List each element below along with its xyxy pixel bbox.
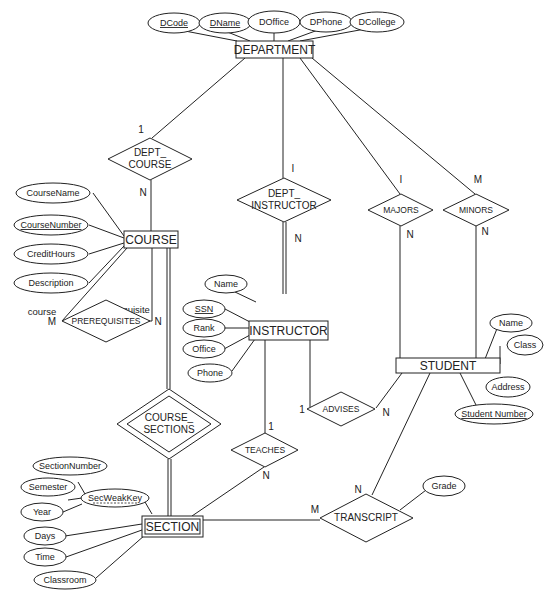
cardinality-prereq-course: M	[48, 316, 56, 327]
svg-text:SecWeakKey: SecWeakKey	[88, 493, 142, 503]
cardinality-transcript-student: N	[354, 484, 361, 495]
svg-text:CreditHours: CreditHours	[27, 249, 76, 259]
svg-text:Days: Days	[35, 531, 56, 541]
svg-text:STUDENT: STUDENT	[420, 359, 477, 373]
svg-text:Name: Name	[214, 279, 238, 289]
cardinality-transcript-section: M	[311, 504, 319, 515]
svg-text:Name: Name	[499, 318, 523, 328]
svg-text:Office: Office	[192, 344, 215, 354]
svg-text:SectionNumber: SectionNumber	[39, 461, 101, 471]
svg-text:DEPT_: DEPT_	[268, 188, 301, 199]
svg-text:TEACHES: TEACHES	[245, 445, 285, 455]
cardinality-advises-instr: 1	[299, 404, 305, 415]
svg-text:MAJORS: MAJORS	[383, 205, 419, 215]
svg-text:COURSE: COURSE	[129, 159, 172, 170]
svg-text:SECTION: SECTION	[146, 520, 199, 534]
svg-text:Class: Class	[514, 340, 537, 350]
attr-sectionnumber: SectionNumber	[33, 457, 107, 475]
svg-text:DEPARTMENT: DEPARTMENT	[234, 43, 316, 57]
attr-office: Office	[183, 340, 225, 358]
entity-section: SECTION	[142, 516, 203, 537]
svg-text:CourseName: CourseName	[26, 188, 79, 198]
svg-text:Rank: Rank	[193, 323, 215, 333]
cardinality-teaches-instr: 1	[268, 421, 274, 432]
cardinality-dept-course-dept: 1	[138, 124, 144, 135]
attr-secweakkey: SecWeakKey	[81, 489, 149, 507]
relationship-course-sections: COURSE_ SECTIONS	[117, 389, 221, 459]
attr-address: Address	[486, 377, 530, 397]
svg-text:DName: DName	[210, 18, 241, 28]
svg-text:INSTRUCTOR: INSTRUCTOR	[251, 200, 316, 211]
cardinality-majors-student: N	[406, 229, 413, 240]
attr-description: Description	[14, 273, 88, 293]
svg-text:Student Number: Student Number	[461, 409, 527, 419]
attr-ssn: SSN	[183, 300, 225, 318]
svg-text:Address: Address	[491, 382, 525, 392]
attr-credithours: CreditHours	[14, 244, 88, 264]
cardinality-minors-student: N	[481, 226, 488, 237]
svg-text:INSTRUCTOR: INSTRUCTOR	[249, 324, 328, 338]
svg-text:DOffice: DOffice	[259, 17, 289, 27]
relationship-majors: MAJORS	[368, 194, 433, 226]
cardinality-dept-instr-instr: N	[294, 233, 301, 244]
svg-text:ADVISES: ADVISES	[323, 404, 360, 414]
attr-classroom: Classroom	[34, 571, 96, 589]
svg-text:DCollege: DCollege	[358, 17, 395, 27]
relationship-dept-instructor: DEPT_ INSTRUCTOR	[237, 178, 331, 222]
svg-text:MINORS: MINORS	[459, 205, 493, 215]
svg-text:DEPT_: DEPT_	[134, 147, 167, 158]
relationship-teaches: TEACHES	[231, 433, 298, 467]
relationship-advises: ADVISES	[307, 392, 375, 426]
attr-instructor-name: Name	[205, 275, 247, 293]
attr-rank: Rank	[183, 319, 225, 337]
svg-text:DCode: DCode	[160, 18, 188, 28]
cardinality-prereq-prereq: N	[154, 316, 161, 327]
er-diagram: DCode DName DOffice DPhone DCollege DEPA…	[0, 0, 553, 601]
cardinality-dept-course-course: N	[139, 187, 146, 198]
svg-text:COURSE_: COURSE_	[145, 412, 194, 423]
attr-dname: DName	[199, 13, 251, 33]
cardinality-advises-student: N	[382, 407, 389, 418]
attr-days: Days	[24, 527, 66, 545]
svg-text:Grade: Grade	[431, 481, 456, 491]
svg-text:SECTIONS: SECTIONS	[143, 424, 194, 435]
entity-student: STUDENT	[396, 358, 500, 373]
attr-coursename: CourseName	[16, 183, 90, 203]
attr-doffice: DOffice	[248, 11, 300, 33]
attr-dcode: DCode	[148, 13, 200, 33]
svg-text:TRANSCRIPT: TRANSCRIPT	[334, 512, 398, 523]
attr-year: Year	[21, 503, 63, 521]
cardinality-teaches-section: N	[262, 470, 269, 481]
attr-semester: Semester	[21, 478, 75, 496]
svg-text:Time: Time	[35, 552, 55, 562]
svg-text:Semester: Semester	[29, 482, 68, 492]
svg-text:CourseNumber: CourseNumber	[20, 220, 81, 230]
course-attributes: CourseName CourseNumber CreditHours Desc…	[14, 183, 90, 293]
svg-text:Phone: Phone	[197, 368, 223, 378]
svg-text:Year: Year	[33, 507, 51, 517]
svg-text:DPhone: DPhone	[310, 17, 343, 27]
attr-coursenumber: CourseNumber	[14, 215, 88, 235]
svg-text:SSN: SSN	[195, 304, 214, 314]
attr-time: Time	[24, 548, 66, 566]
relationship-dept-course: DEPT_ COURSE	[108, 138, 192, 180]
entity-department: DEPARTMENT	[234, 41, 316, 58]
svg-text:Description: Description	[28, 278, 73, 288]
section-attributes: SectionNumber Semester SecWeakKey Year D…	[21, 457, 149, 589]
attr-dphone: DPhone	[300, 12, 352, 32]
relationship-minors: MINORS	[443, 194, 509, 226]
attr-student-number: Student Number	[455, 404, 533, 424]
department-attributes: DCode DName DOffice DPhone DCollege	[148, 11, 404, 33]
attr-student-name: Name	[490, 314, 532, 332]
attr-class: Class	[507, 335, 543, 355]
entity-course: COURSE	[124, 231, 178, 248]
cardinality-dept-instr-dept: I	[292, 163, 295, 174]
svg-text:COURSE: COURSE	[125, 233, 176, 247]
attr-dcollege: DCollege	[350, 12, 404, 32]
cardinality-minors-dept: M	[474, 174, 482, 185]
entity-instructor: INSTRUCTOR	[249, 321, 328, 340]
cardinality-majors-dept: I	[400, 174, 403, 185]
attr-grade: Grade	[423, 476, 465, 496]
svg-text:Classroom: Classroom	[43, 575, 86, 585]
svg-text:PREREQUISITES: PREREQUISITES	[72, 316, 141, 326]
